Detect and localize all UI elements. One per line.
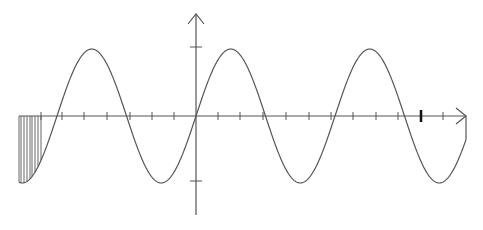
axis-ticks [41,47,443,181]
hatched-area [19,116,41,183]
axes [19,14,466,215]
plot-canvas [0,0,483,230]
sine-diagram [0,0,483,230]
